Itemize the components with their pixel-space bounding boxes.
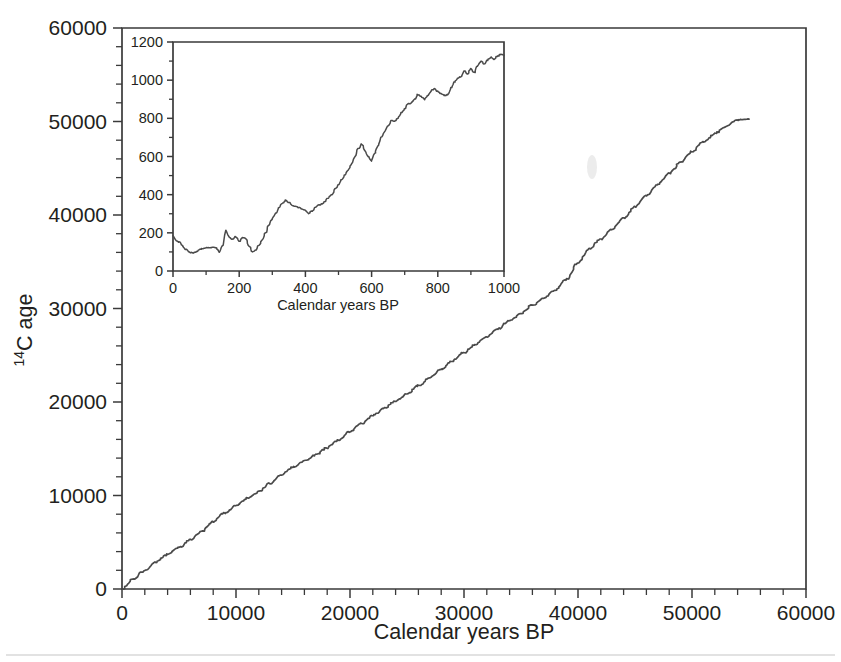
inset-x-axis-ticks [173, 271, 504, 277]
main-y-tick-label: 30000 [49, 297, 107, 320]
main-x-tick-label: 20000 [321, 601, 379, 624]
inset-y-axis-labels: 020040060080010001200 [131, 34, 163, 279]
main-y-tick-label: 10000 [49, 484, 107, 507]
chart-svg: 0100002000030000400005000060000 01000020… [0, 0, 841, 662]
inset-y-tick-label: 1200 [131, 34, 163, 50]
inset-plot: 020040060080010001200 02004006008001000 … [131, 34, 520, 313]
inset-x-tick-label: 1000 [488, 280, 520, 296]
inset-x-axis-title: Calendar years BP [277, 297, 399, 313]
inset-y-tick-label: 1000 [131, 72, 163, 88]
figure-container: 0100002000030000400005000060000 01000020… [0, 0, 841, 662]
inset-y-axis-ticks [167, 42, 173, 271]
inset-y-tick-label: 600 [139, 149, 163, 165]
main-y-axis-ticks [113, 28, 122, 589]
main-y-tick-label: 60000 [49, 16, 107, 39]
inset-x-tick-label: 600 [359, 280, 383, 296]
inset-y-tick-label: 800 [139, 110, 163, 126]
main-y-tick-label: 40000 [49, 203, 107, 226]
inset-y-tick-label: 400 [139, 187, 163, 203]
main-y-axis-title: 14C age [11, 294, 37, 367]
inset-x-tick-label: 800 [426, 280, 450, 296]
main-x-tick-label: 50000 [663, 601, 721, 624]
main-y-axis-labels: 0100002000030000400005000060000 [49, 16, 107, 600]
inset-x-tick-label: 200 [227, 280, 251, 296]
main-x-axis-title: Calendar years BP [374, 620, 554, 644]
main-x-tick-label: 0 [116, 601, 128, 624]
inset-y-tick-label: 0 [155, 263, 163, 279]
main-x-tick-label: 60000 [777, 601, 835, 624]
inset-x-tick-label: 400 [293, 280, 317, 296]
main-x-tick-label: 10000 [207, 601, 265, 624]
main-y-tick-label: 20000 [49, 390, 107, 413]
page-smudge-artifact [587, 155, 597, 179]
main-y-tick-label: 0 [95, 577, 107, 600]
main-x-tick-label: 40000 [549, 601, 607, 624]
inset-y-tick-label: 200 [139, 225, 163, 241]
main-x-axis-ticks [122, 589, 806, 598]
main-y-tick-label: 50000 [49, 110, 107, 133]
inset-background [173, 42, 504, 271]
inset-x-axis-labels: 02004006008001000 [169, 280, 520, 296]
inset-x-tick-label: 0 [169, 280, 177, 296]
svg-text:14C age: 14C age [11, 294, 37, 367]
